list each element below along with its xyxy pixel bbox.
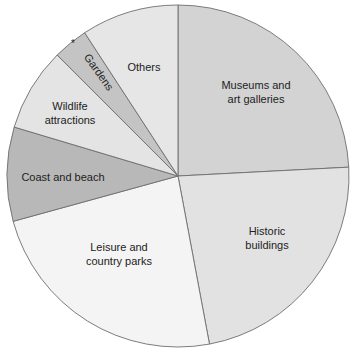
asterisk-annotation: * <box>71 38 75 49</box>
slice-label-others: Others <box>127 61 161 73</box>
slice-label-coast-and-beach: Coast and beach <box>21 171 104 183</box>
pie-chart: Museums andart galleriesHistoricbuilding… <box>0 0 355 352</box>
